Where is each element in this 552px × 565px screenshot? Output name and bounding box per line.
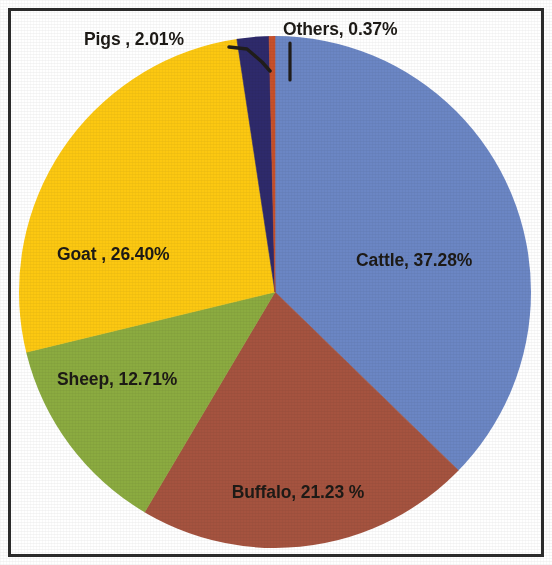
- slice-label-pigs: Pigs , 2.01%: [84, 28, 184, 50]
- slice-label-cattle: Cattle, 37.28%: [356, 249, 472, 271]
- slice-label-others: Others, 0.37%: [283, 18, 397, 40]
- slice-label-buffalo: Buffalo, 21.23 %: [228, 481, 368, 503]
- slice-label-goat: Goat , 26.40%: [57, 243, 170, 265]
- slice-label-sheep: Sheep, 12.71%: [57, 368, 177, 390]
- pie-chart-figure: Cattle, 37.28% Buffalo, 21.23 % Sheep, 1…: [0, 0, 552, 565]
